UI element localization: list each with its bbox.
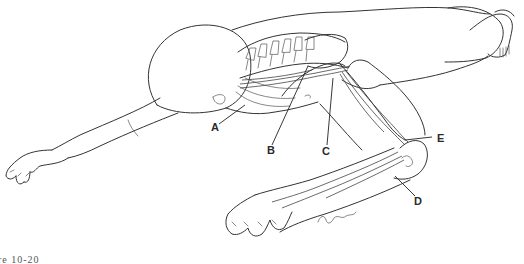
leader-E [405,137,432,140]
anatomy-figure: A B C D E re 10-20 [0,0,524,264]
right-hand [226,195,292,236]
back-contour [232,7,490,30]
leader-A [219,105,245,124]
label-E: E [437,133,444,144]
label-C: C [322,146,330,157]
label-B: B [267,145,275,156]
anatomy-drawing [0,0,524,264]
label-A: A [211,122,219,133]
leader-C [327,78,333,145]
figure-caption: re 10-20 [0,254,40,264]
head-outline [148,25,251,113]
artist-signature [318,212,356,223]
left-arm-upper [52,98,160,150]
elbow [394,141,427,180]
label-D: D [414,196,422,207]
vertebral-column [238,33,348,78]
leader-B [272,66,308,145]
brachial-plexus [240,66,350,88]
left-hand [6,150,68,184]
